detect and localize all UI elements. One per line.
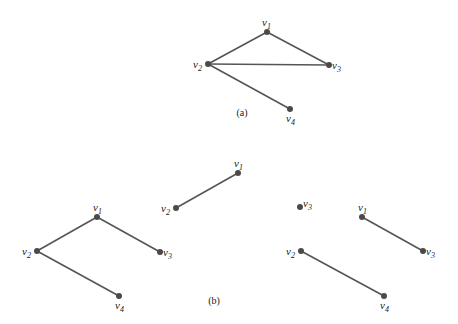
graph-a-edge-v1-v2 (208, 32, 267, 64)
graph-diagram: v1v2v3v4v1v2v3v4v1v2v3v1v3v2v4 (a) (b) (0, 0, 458, 324)
graph-b4-label-v3: v3 (426, 245, 435, 260)
graph-a-edge-v2-v4 (208, 64, 290, 109)
graph-b1-label-v1: v1 (93, 201, 102, 216)
graph-a-label-v3: v3 (332, 59, 341, 74)
graph-b1-label-v4: v4 (115, 299, 124, 314)
graph-b1-label-v3: v3 (163, 246, 172, 261)
graph-b5-label-v4: v4 (380, 299, 389, 314)
graph-b1-edge-v2-v4 (37, 251, 119, 296)
edges (37, 32, 423, 296)
caption-b: (b) (208, 295, 220, 307)
graph-b1-edge-v1-v2 (37, 217, 97, 251)
graph-b2-label-v2: v2 (161, 202, 170, 217)
graph-a-label-v4: v4 (286, 112, 295, 127)
labels: v1v2v3v4v1v2v3v4v1v2v3v1v3v2v4 (22, 16, 435, 314)
graph-a-node-v2 (205, 61, 211, 67)
caption-a: (a) (236, 107, 247, 119)
graph-b2-label-v1: v1 (234, 157, 243, 172)
graph-b4-edge-v1-v3 (362, 217, 423, 251)
graph-b5-edge-v2-v4 (301, 251, 384, 296)
graph-b2-edge-v1-v2 (176, 173, 238, 208)
graph-b1-node-v2 (34, 248, 40, 254)
graph-a-label-v2: v2 (193, 58, 202, 73)
graph-b2-node-v2 (173, 205, 179, 211)
graph-b1-label-v2: v2 (22, 245, 31, 260)
graph-b5-node-v2 (298, 248, 304, 254)
graph-b1-edge-v1-v3 (97, 217, 160, 252)
graph-a-edge-v1-v3 (267, 32, 329, 65)
graph-b4-label-v1: v1 (358, 201, 367, 216)
nodes (34, 29, 426, 299)
graph-b3-label-v3: v3 (303, 197, 312, 212)
graph-a-label-v1: v1 (262, 16, 271, 31)
graph-b5-label-v2: v2 (286, 245, 295, 260)
graph-a-edge-v2-v3 (208, 64, 329, 65)
